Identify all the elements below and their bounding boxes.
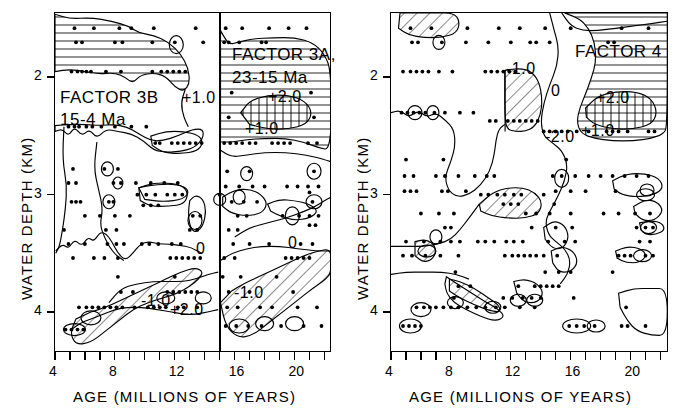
x-tick-label: 12 <box>505 363 521 379</box>
x-tick-label: 20 <box>625 363 641 379</box>
y-tick-label: 2 <box>34 67 42 83</box>
x-tick <box>420 352 422 360</box>
y-axis-label-right: WATER DEPTH (KM) <box>354 137 371 300</box>
x-tick <box>219 352 221 360</box>
y-tick-label: 4 <box>370 302 378 318</box>
y-tick <box>47 194 55 196</box>
x-tick <box>279 352 281 360</box>
x-tick-label: 8 <box>109 363 117 379</box>
anno-factor3b-title: FACTOR 3B <box>60 88 159 108</box>
y-axis-label-left: WATER DEPTH (KM) <box>18 137 35 300</box>
anno-minus1-right: -1.0 <box>234 284 264 302</box>
anno-zero-b: 0 <box>288 234 297 252</box>
x-tick-label: 16 <box>229 363 245 379</box>
x-tick <box>525 352 527 360</box>
x-tick <box>405 352 407 360</box>
y-tick-label: 3 <box>34 185 42 201</box>
anno-minus1-left: -1.0 <box>141 292 171 310</box>
x-tick <box>309 352 311 360</box>
x-tick <box>204 352 206 360</box>
x-tick <box>99 352 101 360</box>
y-tick-label: 4 <box>34 302 42 318</box>
x-tick <box>585 352 587 360</box>
x-tick <box>129 352 131 360</box>
x-tick <box>189 352 191 360</box>
y-tick-label: 3 <box>370 185 378 201</box>
y-tick-label: 2 <box>370 67 378 83</box>
anno-factor3a-title: FACTOR 3A, <box>232 45 336 65</box>
y-tick <box>47 311 55 313</box>
x-tick <box>84 352 86 360</box>
anno-r-plus1: +1.0 <box>581 122 615 140</box>
x-tick <box>264 352 266 360</box>
x-tick <box>630 352 632 360</box>
x-tick <box>144 352 146 360</box>
x-tick <box>600 352 602 360</box>
x-tick-label: 12 <box>169 363 185 379</box>
x-tick <box>234 352 236 360</box>
x-tick <box>294 352 296 360</box>
anno-r-zero: 0 <box>551 82 560 100</box>
x-tick <box>660 352 662 360</box>
anno-left-plus1: +1.0 <box>182 89 216 107</box>
y-tick <box>383 194 391 196</box>
x-tick <box>510 352 512 360</box>
anno-r-minus2: -2.0 <box>545 128 575 146</box>
x-tick-label: 8 <box>445 363 453 379</box>
x-tick <box>174 352 176 360</box>
x-tick <box>69 352 71 360</box>
x-tick <box>159 352 161 360</box>
anno-right-seg-plus2: +2.0 <box>268 88 302 106</box>
x-tick <box>645 352 647 360</box>
x-axis-label-right: AGE (MILLIONS OF YEARS) <box>409 388 632 405</box>
y-tick <box>47 76 55 78</box>
anno-r-minus1: -1.0 <box>506 60 536 78</box>
anno-factor3b-range: 15-4 Ma <box>60 110 126 130</box>
x-tick-label: 16 <box>565 363 581 379</box>
x-tick <box>555 352 557 360</box>
x-tick <box>435 352 437 360</box>
x-tick <box>249 352 251 360</box>
x-tick <box>114 352 116 360</box>
anno-zero-a: 0 <box>196 240 205 258</box>
anno-r-plus2: +2.0 <box>596 89 630 107</box>
figure-root: FACTOR 3B 15-4 Ma FACTOR 3A, 23-15 Ma +1… <box>0 0 682 418</box>
anno-minus2-left: +2.0 <box>170 301 204 319</box>
y-tick <box>383 311 391 313</box>
anno-right-seg-plus1: +1.0 <box>245 120 279 138</box>
panel-divider-line <box>219 12 221 352</box>
x-tick <box>450 352 452 360</box>
anno-factor4-title: FACTOR 4 <box>575 42 662 62</box>
x-tick <box>570 352 572 360</box>
x-tick <box>324 352 326 360</box>
x-tick <box>480 352 482 360</box>
x-tick <box>54 352 56 360</box>
anno-factor3a-range: 23-15 Ma <box>232 68 308 88</box>
x-tick-label: 4 <box>385 363 393 379</box>
y-tick <box>383 76 391 78</box>
x-tick <box>615 352 617 360</box>
x-tick-label: 4 <box>49 363 57 379</box>
x-axis-label-left: AGE (MILLIONS OF YEARS) <box>73 388 296 405</box>
x-tick <box>495 352 497 360</box>
x-tick <box>390 352 392 360</box>
x-tick <box>465 352 467 360</box>
x-tick <box>540 352 542 360</box>
x-tick-label: 20 <box>289 363 305 379</box>
